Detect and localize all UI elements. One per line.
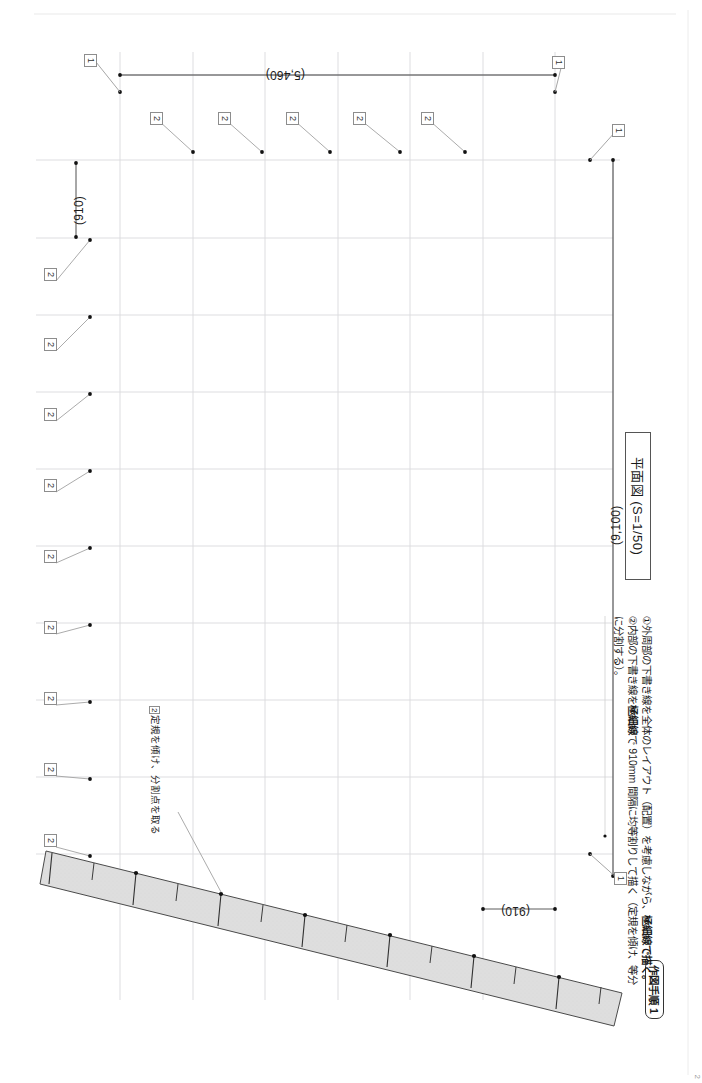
dimension-top-overall <box>96 62 562 94</box>
callout-one-top-right[interactable]: 1 <box>552 56 565 69</box>
plan-view-title: 平面図 (S=1/50) <box>629 457 648 556</box>
callout-two-label-l9: 2 <box>46 838 55 843</box>
callout-two-left-1[interactable]: 2 <box>44 268 57 281</box>
procedure-line-2b: 極細線 <box>627 705 639 735</box>
procedure-line-1b: 極細線で描く。 <box>641 915 653 985</box>
callout-leaders-left <box>56 240 90 856</box>
plan-outline <box>120 75 613 876</box>
dimension-text-right-overall: (9,100) <box>609 506 623 545</box>
callout-two-top-2[interactable]: 2 <box>218 112 231 125</box>
callout-two-left-7[interactable]: 2 <box>44 692 57 705</box>
callout-two-label-l3: 2 <box>46 412 55 417</box>
callout-two-label-l2: 2 <box>46 342 55 347</box>
callout-two-left-8[interactable]: 2 <box>44 763 57 776</box>
callout-two-label-l7: 2 <box>46 696 55 701</box>
callout-two-left-5[interactable]: 2 <box>44 550 57 563</box>
procedure-line-2a: ②内部の下書き線を <box>627 616 639 705</box>
procedure-line-3: に分割する）。 <box>614 616 625 681</box>
dimension-text-left-module: (910) <box>72 196 86 225</box>
procedure-line-2c: で 910mm 間隔に均等割りして描く（定規を傾け、等分 <box>627 735 639 985</box>
callout-two-label-t2: 2 <box>220 116 229 121</box>
tilted-ruler <box>40 812 622 1026</box>
callout-two-label-l5: 2 <box>46 554 55 559</box>
procedure-line-1a: ①外周部の下書き線を全体のレイアウト（配置）を考慮しながら、 <box>641 616 653 915</box>
procedure-block: 作図手順 1 ①外周部の下書き線を全体のレイアウト（配置）を考慮しながら、極細線… <box>612 612 690 1072</box>
callout-one-label-tl: 1 <box>86 58 95 63</box>
callout-one-label-tr: 1 <box>554 60 563 65</box>
callout-one-label-ru: 1 <box>614 128 623 133</box>
callout-two-left-3[interactable]: 2 <box>44 408 57 421</box>
sheet-border <box>34 10 688 1075</box>
grid-nodes-top <box>191 150 467 154</box>
callout-two-label-t5: 2 <box>423 116 432 121</box>
callout-two-label-t3: 2 <box>288 116 297 121</box>
page-number: 2 <box>693 1075 702 1079</box>
callout-leaders-top <box>159 121 465 152</box>
callout-two-top-1[interactable]: 2 <box>150 112 163 125</box>
plan-view-title-box: 平面図 (S=1/50) <box>625 432 651 580</box>
procedure-line-3-text: に分割する）。 <box>613 616 625 681</box>
callout-two-left-9[interactable]: 2 <box>44 834 57 847</box>
callout-two-label-l1: 2 <box>46 272 55 277</box>
procedure-line-1: ①外周部の下書き線を全体のレイアウト（配置）を考慮しながら、極細線で描く。 <box>642 616 653 985</box>
callout-two-label-l6: 2 <box>46 625 55 630</box>
callout-two-label-l8: 2 <box>46 767 55 772</box>
callout-two-left-4[interactable]: 2 <box>44 479 57 492</box>
callout-one-right-upper[interactable]: 1 <box>612 124 625 137</box>
procedure-line-2: ②内部の下書き線を極細線で 910mm 間隔に均等割りして描く（定規を傾け、等分 <box>628 616 639 985</box>
ruler-division-note: 2定規を傾け、分割点を取る <box>149 706 163 835</box>
dimension-text-bottom-module: (910) <box>501 904 530 918</box>
grid-vertical-lines <box>120 52 555 1000</box>
callout-two-left-6[interactable]: 2 <box>44 621 57 634</box>
grid-nodes-left <box>88 238 92 858</box>
callout-two-top-4[interactable]: 2 <box>353 112 366 125</box>
callout-two-top-5[interactable]: 2 <box>421 112 434 125</box>
callout-two-top-3[interactable]: 2 <box>286 112 299 125</box>
callout-two-label-l4: 2 <box>46 483 55 488</box>
ruler-note-number: 2 <box>149 706 160 714</box>
grid-horizontal-lines <box>36 160 620 854</box>
dimension-text-top-overall: (5,460) <box>266 68 305 82</box>
callout-one-top-left[interactable]: 1 <box>84 54 97 67</box>
callout-two-label-t1: 2 <box>152 116 161 121</box>
procedure-rule <box>603 616 606 838</box>
ruler-note-text: 定規を傾け、分割点を取る <box>150 715 161 835</box>
callout-two-left-2[interactable]: 2 <box>44 338 57 351</box>
callout-two-label-t4: 2 <box>355 116 364 121</box>
